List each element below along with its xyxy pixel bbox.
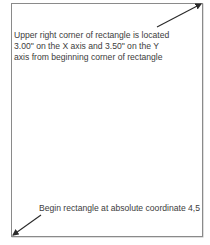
upper-right-arrow-icon [157, 4, 201, 27]
arrows-layer [0, 0, 210, 245]
lower-left-arrow-icon [13, 215, 41, 235]
